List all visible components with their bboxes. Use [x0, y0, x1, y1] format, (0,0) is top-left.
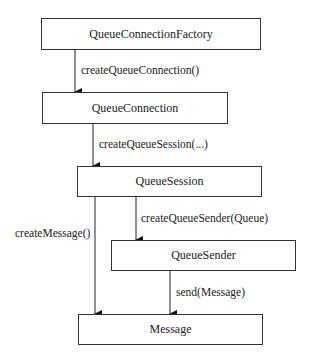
node-label: Message	[150, 322, 192, 337]
node-label: QueueConnectionFactory	[89, 27, 212, 42]
node-label: QueueConnection	[92, 101, 179, 116]
node-queue-connection-factory: QueueConnectionFactory	[41, 18, 261, 50]
node-label: QueueSender	[171, 248, 236, 263]
node-queue-session: QueueSession	[77, 166, 262, 197]
node-message: Message	[78, 314, 263, 345]
node-label: QueueSession	[136, 174, 204, 189]
edge-label-create-session: createQueueSession(...)	[99, 138, 208, 150]
node-queue-connection: QueueConnection	[42, 92, 228, 124]
edge-label-create-message: createMessage()	[15, 227, 90, 239]
node-queue-sender: QueueSender	[111, 240, 296, 271]
edge-label-send: send(Message)	[176, 286, 245, 298]
edge-label-create-sender: createQueueSender(Queue)	[141, 212, 268, 224]
edge-label-create-connection: createQueueConnection()	[81, 64, 199, 76]
